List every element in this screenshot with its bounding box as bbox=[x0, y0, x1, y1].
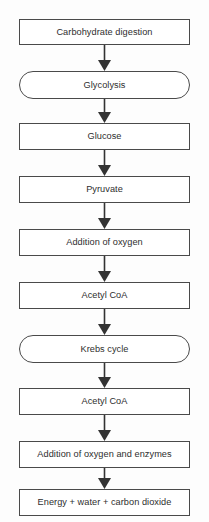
flow-connector-5 bbox=[0, 256, 209, 282]
flow-node-label: Addition of oxygen and enzymes bbox=[37, 449, 171, 459]
flow-connector-9 bbox=[0, 468, 209, 489]
flow-node-carbohydrate-digestion: Carbohydrate digestion bbox=[19, 19, 190, 45]
flow-node-glycolysis: Glycolysis bbox=[19, 71, 190, 99]
flow-connector-4 bbox=[0, 203, 209, 229]
flow-connector-8 bbox=[0, 415, 209, 441]
flow-node-label: Glycolysis bbox=[84, 80, 126, 90]
flow-node-label: Addition of oxygen bbox=[66, 237, 143, 247]
down-arrow-icon bbox=[0, 363, 209, 388]
flow-node-acetyl-coa-1: Acetyl CoA bbox=[19, 282, 190, 309]
down-arrow-icon bbox=[0, 309, 209, 335]
flow-connector-7 bbox=[0, 363, 209, 388]
flow-node-label: Energy + water + carbon dioxide bbox=[38, 497, 172, 507]
flow-node-label: Acetyl CoA bbox=[82, 396, 128, 406]
flow-node-addition-of-oxygen-and-enzymes: Addition of oxygen and enzymes bbox=[19, 441, 190, 468]
flow-connector-1 bbox=[0, 45, 209, 71]
flow-node-pyruvate: Pyruvate bbox=[19, 176, 190, 203]
down-arrow-icon bbox=[0, 415, 209, 441]
flow-node-energy-water-carbon-dioxide: Energy + water + carbon dioxide bbox=[19, 489, 190, 516]
flow-node-label: Acetyl CoA bbox=[82, 290, 128, 300]
flow-node-label: Pyruvate bbox=[86, 184, 123, 194]
cellular-respiration-flowchart: Carbohydrate digestionGlycolysisGlucoseP… bbox=[0, 0, 209, 522]
down-arrow-icon bbox=[0, 203, 209, 229]
flow-node-glucose: Glucose bbox=[19, 123, 190, 150]
flow-node-label: Glucose bbox=[87, 131, 121, 141]
flow-node-acetyl-coa-2: Acetyl CoA bbox=[19, 388, 190, 415]
down-arrow-icon bbox=[0, 99, 209, 123]
down-arrow-icon bbox=[0, 468, 209, 489]
flow-node-krebs-cycle: Krebs cycle bbox=[19, 335, 190, 363]
flow-node-label: Krebs cycle bbox=[80, 344, 128, 354]
down-arrow-icon bbox=[0, 45, 209, 71]
flow-connector-2 bbox=[0, 99, 209, 123]
flow-connector-6 bbox=[0, 309, 209, 335]
flow-node-label: Carbohydrate digestion bbox=[56, 27, 152, 37]
down-arrow-icon bbox=[0, 150, 209, 176]
flow-node-addition-of-oxygen: Addition of oxygen bbox=[19, 229, 190, 256]
flow-connector-3 bbox=[0, 150, 209, 176]
down-arrow-icon bbox=[0, 256, 209, 282]
